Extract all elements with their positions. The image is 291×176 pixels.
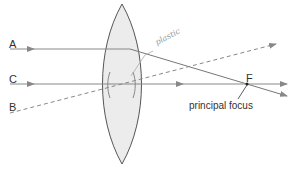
ray-label-a: A xyxy=(9,39,16,50)
ray-c-arrow-icon xyxy=(27,81,35,87)
diagram-canvas xyxy=(0,0,291,176)
focus-label: F xyxy=(246,73,253,84)
ray-a-arrow-icon xyxy=(27,46,35,52)
focus-caption: principal focus xyxy=(189,101,253,111)
ray-label-c: C xyxy=(9,74,17,85)
ray-label-b: B xyxy=(9,102,16,113)
lens-diagram: A C B F principal focus plastic xyxy=(0,0,291,176)
